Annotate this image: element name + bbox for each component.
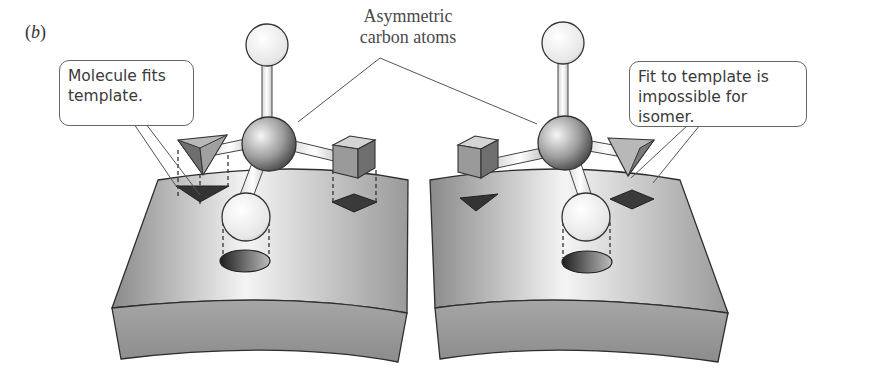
panel-label-close: ) <box>40 22 46 42</box>
caption-leader-right <box>380 58 537 124</box>
right-carbon-atom <box>538 116 592 170</box>
right-bottom-atom <box>562 193 610 241</box>
right-round-hole <box>562 251 612 273</box>
callout-fit-impossible: Fit to template is impossible for isomer… <box>629 61 807 127</box>
left-bottom-atom <box>222 193 270 241</box>
figure: (b) Asymmetric carbon atoms Molecule fit… <box>0 0 870 370</box>
caption-line-2: carbon atoms <box>333 27 483 48</box>
right-top-atom <box>542 22 584 64</box>
left-template-side <box>112 300 407 362</box>
caption-line-1: Asymmetric <box>333 6 483 27</box>
panel-label: (b) <box>25 22 46 43</box>
callout-right-line-1: Fit to template is <box>638 67 798 87</box>
right-tetrahedron <box>608 138 654 176</box>
callout-left-line-1: Molecule fits <box>68 66 185 86</box>
right-cube <box>458 136 498 178</box>
left-tetrahedron <box>178 135 227 175</box>
callout-right-line-2: impossible for isomer. <box>638 87 798 127</box>
diagram-graphics <box>0 0 870 370</box>
left-top-atom <box>246 24 288 66</box>
left-template-top <box>112 169 408 313</box>
right-template-side <box>435 300 728 362</box>
asymmetric-carbon-caption: Asymmetric carbon atoms <box>333 6 483 48</box>
callout-molecule-fits: Molecule fits template. <box>59 60 194 126</box>
callout-left-line-2: template. <box>68 86 185 106</box>
left-round-hole <box>220 250 270 272</box>
left-carbon-atom <box>242 117 296 171</box>
panel-label-letter: b <box>31 22 40 42</box>
caption-leader-left <box>298 58 380 122</box>
left-cube <box>333 136 375 178</box>
